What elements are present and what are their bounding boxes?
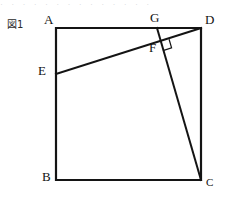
geometry-diagram <box>0 0 229 197</box>
vertex-label-d: D <box>205 13 214 26</box>
right-angle-marker <box>163 39 172 50</box>
figure-caption: 図1 <box>7 20 23 30</box>
segment-e-to-d <box>56 28 201 74</box>
vertex-label-g: G <box>150 11 159 24</box>
figure-container: · · · · · · · · · · · · · · 図1 A B C D E… <box>0 0 229 197</box>
vertex-label-b: B <box>42 170 51 183</box>
vertex-label-f: F <box>149 41 156 54</box>
vertex-label-a: A <box>44 13 53 26</box>
vertex-label-c: C <box>206 177 213 188</box>
vertex-label-e: E <box>38 64 46 77</box>
